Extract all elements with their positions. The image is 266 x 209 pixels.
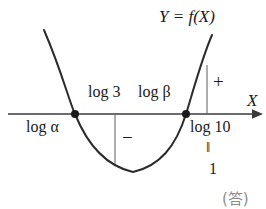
root-marker-log-10 [182,110,190,118]
math-figure-parabola: Y = f(X) X log 3 log β log α log 10 ‖ 1 … [0,0,266,209]
figure-canvas [0,0,266,209]
root-marker-log-alpha [71,110,79,118]
sign-negative-label: − [122,128,133,147]
x-axis-arrowhead [252,109,263,119]
label-log-10: log 10 [190,119,230,135]
curve-equation-label: Y = f(X) [159,8,215,25]
parabola-curve [44,30,212,172]
rotated-equals-sign: ‖ [206,140,209,155]
x-axis-label: X [247,92,257,109]
label-log-beta: log β [138,84,171,100]
sign-positive-label: + [213,72,224,91]
label-log-3: log 3 [88,84,120,100]
label-log-alpha: log α [26,119,59,135]
label-value-one: 1 [209,161,217,177]
answer-mark-label: (答) [222,192,249,207]
